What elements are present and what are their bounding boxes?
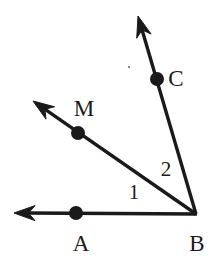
ray-b-to-c-shaft	[142, 28, 196, 214]
angle-label-2: 2	[161, 159, 172, 180]
stray-speck-artifact	[128, 66, 130, 68]
point-dot-c	[150, 72, 164, 86]
diagram-canvas: B A M C 1 2	[0, 0, 217, 261]
point-label-a: A	[73, 232, 90, 255]
point-label-m: M	[74, 97, 94, 120]
point-label-c: C	[168, 67, 183, 90]
points-group	[69, 72, 164, 220]
point-dot-m	[71, 126, 85, 140]
ray-b-to-m-shaft	[44, 108, 196, 214]
rays-group	[14, 16, 197, 221]
ray-b-to-a-shaft	[27, 213, 197, 214]
angle-label-1: 1	[129, 182, 140, 203]
geometry-figure	[0, 0, 217, 261]
vertex-label-b: B	[189, 232, 204, 255]
point-dot-a	[69, 206, 83, 220]
ray-b-to-m-arrowhead	[33, 101, 55, 119]
